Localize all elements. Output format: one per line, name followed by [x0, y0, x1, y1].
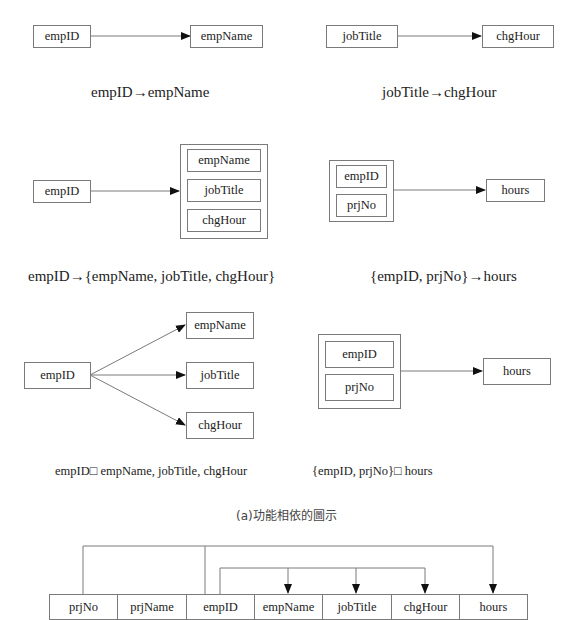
table-cell-empname: empName [254, 594, 323, 620]
attribute-empname: empName [186, 312, 254, 339]
attribute-empid: empID [33, 25, 91, 48]
attribute-chghour: chgHour [187, 209, 261, 232]
fd-caption: empID→{empName, jobTitle, chgHour} [28, 268, 275, 285]
table-cell-prjno: prjNo [49, 594, 118, 620]
fd-arrow [90, 325, 185, 375]
attribute-empid: empID [24, 362, 91, 389]
attribute-chghour: chgHour [482, 25, 554, 48]
attribute-empname: empName [190, 25, 263, 48]
figure-caption: (a)功能相依的圖示 [236, 506, 337, 523]
table-cell-empid: empID [186, 594, 255, 620]
dependency-line-empid [220, 568, 425, 594]
attribute-hours: hours [483, 358, 551, 385]
attribute-prjno: prjNo [325, 374, 394, 401]
attribute-prjno: prjNo [336, 194, 387, 217]
table-cell-prjname: prjName [117, 594, 187, 620]
attribute-chghour: chgHour [186, 412, 254, 439]
attribute-empname: empName [187, 149, 261, 172]
fd-caption: empID□ empName, jobTitle, chgHour [55, 464, 247, 479]
fd-caption: empID→empName [91, 84, 209, 101]
attribute-empid: empID [325, 341, 394, 368]
fd-caption: {empID, prjNo}□ hours [312, 464, 433, 479]
attribute-hours: hours [486, 179, 545, 202]
fd-caption: {empID, prjNo}→hours [370, 268, 517, 285]
attribute-jobtitle: jobTitle [326, 25, 398, 48]
attribute-jobtitle: jobTitle [187, 179, 261, 202]
table-cell-jobtitle: jobTitle [322, 594, 392, 620]
table-cell-hours: hours [459, 594, 528, 620]
fd-caption: jobTitle→chgHour [382, 84, 496, 101]
fd-arrow [90, 375, 185, 425]
table-cell-chghour: chgHour [391, 594, 460, 620]
attribute-empid: empID [33, 180, 91, 203]
attribute-jobtitle: jobTitle [186, 362, 254, 389]
attribute-empid: empID [336, 165, 387, 188]
